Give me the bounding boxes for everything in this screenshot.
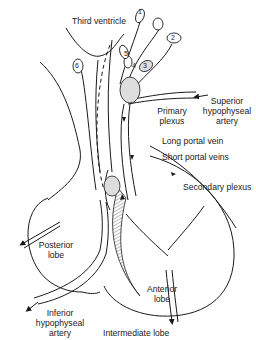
label-primary-plexus: Primary plexus — [152, 106, 192, 126]
label-short-portal-veins: Short portal veins — [162, 152, 229, 162]
label-superior-hypophyseal-artery: Superior hypophyseal artery — [198, 96, 256, 126]
primary-plexus — [120, 77, 140, 103]
neuron-1: 1 — [138, 8, 142, 16]
neuron-5: 5 — [124, 50, 128, 58]
neuron-4: 4 — [132, 62, 136, 70]
label-third-ventricle: Third ventricle — [72, 16, 126, 26]
neuron-6: 6 — [75, 62, 79, 70]
neuron-3: 3 — [143, 62, 147, 70]
neuron-2: 2 — [171, 34, 175, 42]
label-posterior-lobe: Posterior lobe — [36, 240, 76, 260]
pituitary-diagram — [0, 0, 256, 340]
label-inferior-hypophyseal-artery: Inferior hypophyseal artery — [30, 308, 90, 338]
label-intermediate-lobe: Intermediate lobe — [103, 328, 169, 338]
label-long-portal-vein: Long portal vein — [162, 136, 223, 146]
third-ventricle-outline — [66, 28, 124, 56]
label-anterior-lobe: Anterior lobe — [142, 284, 182, 304]
intermediate-lobe-region — [113, 188, 140, 296]
label-secondary-plexus: Secondary plexus — [183, 182, 251, 192]
